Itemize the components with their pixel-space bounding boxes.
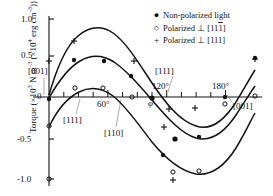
plot-area — [0, 0, 273, 196]
torque-chart-figure: Torque (×103 N m-3 (×104 erg cm-3)) 1.0 … — [0, 0, 273, 196]
curve-polarized-11bar1 — [49, 89, 255, 175]
curve-polarized-111 — [49, 28, 255, 128]
